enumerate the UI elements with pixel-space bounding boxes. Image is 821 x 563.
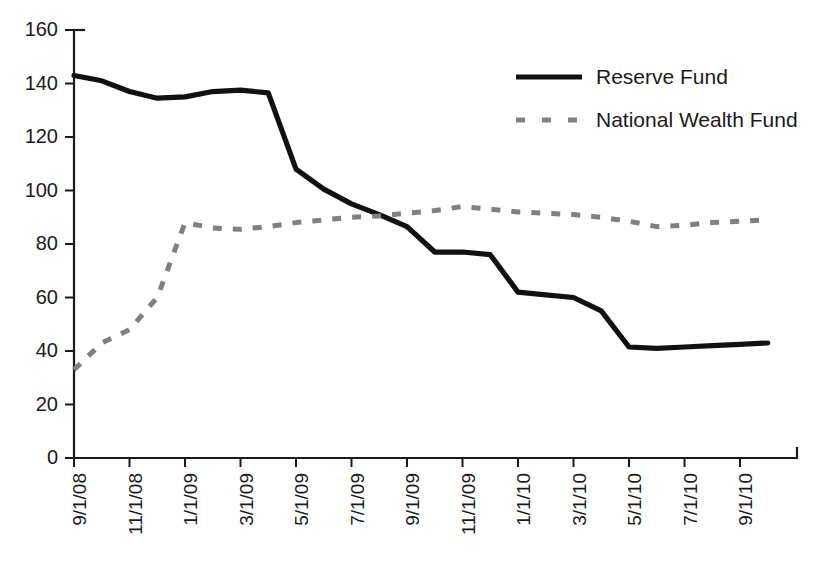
x-tick-label: 7/1/09: [347, 473, 368, 526]
y-tick-label: 80: [36, 232, 58, 254]
legend-label-reserve-fund: Reserve Fund: [596, 65, 728, 88]
line-chart: Reserve FundNational Wealth Fund 9/1/081…: [0, 0, 821, 563]
x-tick-label: 5/1/09: [291, 473, 312, 526]
chart-legend: Reserve FundNational Wealth Fund: [516, 65, 798, 131]
x-axis-labels: 9/1/0811/1/081/1/093/1/095/1/097/1/099/1…: [69, 473, 756, 535]
legend-label-national-wealth-fund: National Wealth Fund: [596, 108, 798, 131]
y-tick-label: 160: [25, 18, 58, 40]
x-tick-label: 3/1/09: [236, 473, 257, 526]
x-tick-label: 9/1/09: [402, 473, 423, 526]
y-tick-label: 120: [25, 125, 58, 147]
x-tick-label: 1/1/10: [513, 473, 534, 526]
x-tick-label: 9/1/10: [735, 473, 756, 526]
y-tick-label: 40: [36, 339, 58, 361]
x-tick-label: 9/1/08: [69, 473, 90, 526]
x-tick-label: 11/1/08: [125, 473, 146, 535]
y-tick-label: 60: [36, 286, 58, 308]
y-tick-label: 140: [25, 72, 58, 94]
y-axis-labels: 020406080100120140160: [25, 18, 58, 468]
x-tick-label: 11/1/09: [458, 473, 479, 535]
y-axis-ticks: [65, 30, 74, 458]
y-tick-label: 20: [36, 393, 58, 415]
x-axis-ticks: [74, 458, 740, 467]
x-tick-label: 1/1/09: [180, 473, 201, 526]
x-tick-label: 3/1/10: [569, 473, 590, 526]
series-line-national-wealth-fund: [74, 207, 768, 370]
x-tick-label: 7/1/10: [680, 473, 701, 526]
x-tick-label: 5/1/10: [624, 473, 645, 526]
y-tick-label: 0: [47, 446, 58, 468]
chart-container: Reserve FundNational Wealth Fund 9/1/081…: [0, 0, 821, 563]
y-tick-label: 100: [25, 179, 58, 201]
